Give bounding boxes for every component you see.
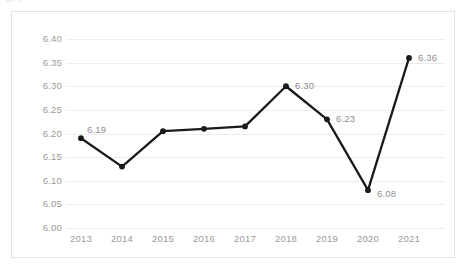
data-point-marker[interactable] <box>160 128 166 134</box>
data-point-label: 6.23 <box>336 114 355 124</box>
data-point-marker[interactable] <box>119 164 125 170</box>
data-point-marker[interactable] <box>242 124 248 130</box>
data-point-marker[interactable] <box>365 187 371 193</box>
clipped-title-fragment: 图 2 , , , <box>6 0 42 2</box>
data-point-marker[interactable] <box>201 126 207 132</box>
data-point-label: 6.08 <box>377 189 396 199</box>
data-point-marker[interactable] <box>406 55 412 61</box>
data-point-label: 6.19 <box>87 125 106 135</box>
chart-frame: 6.006.056.106.156.206.256.306.356.40 201… <box>11 11 455 258</box>
data-point-marker[interactable] <box>324 116 330 122</box>
data-point-marker[interactable] <box>283 83 289 89</box>
data-point-label: 6.36 <box>418 53 437 63</box>
line-chart-plot-area: 6.006.056.106.156.206.256.306.356.40 201… <box>12 12 456 259</box>
data-point-label: 6.30 <box>295 81 314 91</box>
data-point-marker[interactable] <box>78 135 84 141</box>
series-line-and-markers <box>12 12 456 259</box>
